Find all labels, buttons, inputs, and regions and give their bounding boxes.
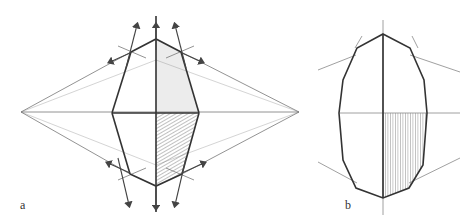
panel-label-b: b — [345, 198, 351, 213]
panel-b — [318, 20, 460, 215]
diagram-canvas — [0, 0, 474, 224]
panel-a — [21, 16, 299, 212]
panel-label-a: a — [20, 198, 25, 213]
